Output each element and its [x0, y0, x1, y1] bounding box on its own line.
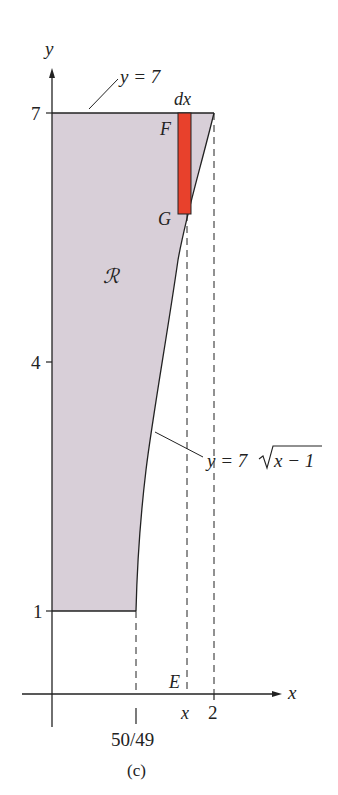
strip-width-label: dx	[174, 89, 191, 109]
region-diagram: y x 7 4 1 50/49 x 2 y = 7 dx F G E ℛ y =…	[0, 0, 338, 795]
x-tick-label-x: x	[180, 703, 189, 723]
leader-line-y7	[89, 79, 118, 109]
x-tick-label-50-49: 50/49	[111, 729, 154, 750]
y-tick-label-7: 7	[31, 103, 41, 124]
point-g-label: G	[158, 209, 171, 229]
top-line-label: y = 7	[118, 66, 162, 87]
figure-caption: (c)	[127, 761, 146, 780]
curve-label-radicand: x − 1	[273, 450, 314, 471]
y-tick-label-4: 4	[31, 352, 41, 373]
y-tick-label-1: 1	[33, 601, 43, 622]
x-axis-arrow-icon	[272, 691, 282, 697]
point-f-label: F	[159, 119, 172, 139]
curve-label: y = 7	[205, 450, 249, 471]
strip-rectangle	[178, 113, 191, 214]
y-axis-label: y	[43, 38, 54, 59]
leader-line-curve	[155, 432, 203, 457]
region-label: ℛ	[103, 265, 121, 287]
x-tick-label-2: 2	[208, 702, 218, 723]
point-e-label: E	[168, 672, 180, 692]
y-axis-arrow-icon	[49, 68, 55, 78]
x-axis-label: x	[287, 682, 297, 703]
